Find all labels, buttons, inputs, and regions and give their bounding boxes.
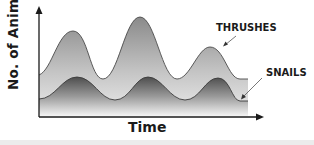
x-axis-arrowhead-icon	[256, 114, 264, 121]
thrushes-pointer-arrowhead-icon	[223, 42, 228, 47]
y-axis-label: No. of Animals	[5, 0, 21, 90]
x-axis-label: Time	[128, 119, 166, 135]
thrushes-label: THRUSHES	[216, 22, 277, 33]
snails-area	[39, 77, 248, 116]
bottom-divider	[0, 140, 314, 145]
snails-label: SNAILS	[266, 67, 307, 78]
y-axis-arrowhead-icon	[36, 6, 43, 14]
